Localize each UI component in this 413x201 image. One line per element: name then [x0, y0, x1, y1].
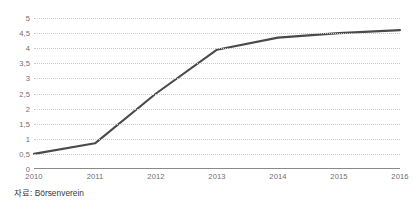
gridline: [34, 139, 400, 140]
gridline: [34, 78, 400, 79]
gridline: [34, 18, 400, 19]
gridline: [34, 109, 400, 110]
x-tick-label: 2014: [269, 172, 286, 181]
gridline: [34, 33, 400, 34]
gridline: [34, 63, 400, 64]
x-axis-tick-labels: 2010201120122013201420152016: [34, 172, 400, 186]
y-tick-label: 4: [2, 44, 30, 53]
y-tick-label: 3: [2, 74, 30, 83]
y-tick-label: 2,5: [2, 89, 30, 98]
x-axis-baseline: [34, 168, 400, 169]
y-axis-tick-labels: 00,511,522,533,544,55: [0, 18, 30, 169]
gridline: [34, 94, 400, 95]
source-note: 자료: Börsenverein: [14, 186, 84, 198]
gridline: [34, 48, 400, 49]
x-tick-label: 2015: [330, 172, 347, 181]
y-tick-label: 2: [2, 104, 30, 113]
y-tick-label: 1,5: [2, 119, 30, 128]
y-tick-label: 4,5: [2, 29, 30, 38]
gridline: [34, 154, 400, 155]
y-tick-label: 0,5: [2, 149, 30, 158]
x-tick-label: 2012: [147, 172, 164, 181]
x-tick-label: 2010: [25, 172, 42, 181]
y-tick-label: 5: [2, 14, 30, 23]
x-tick-label: 2013: [208, 172, 225, 181]
gridline: [34, 124, 400, 125]
plot-area: [34, 18, 400, 169]
x-tick-label: 2016: [391, 172, 408, 181]
y-tick-label: 1: [2, 134, 30, 143]
x-tick-label: 2011: [87, 172, 104, 181]
y-tick-label: 3,5: [2, 59, 30, 68]
line-chart-figure: 00,511,522,533,544,55 201020112012201320…: [0, 0, 413, 201]
